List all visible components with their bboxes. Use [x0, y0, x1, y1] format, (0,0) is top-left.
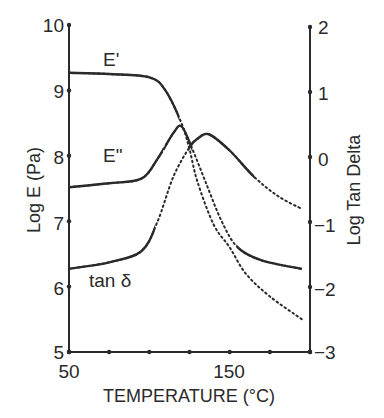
tick-mark	[67, 284, 71, 288]
x-tick-50: 50	[58, 361, 79, 382]
tick-mark	[67, 154, 71, 158]
y-tick-9: 9	[53, 81, 64, 102]
y2-tick-labels: 2 1 0 −1 −2 −3	[314, 17, 336, 363]
y2-tick-minus1: −1	[314, 215, 336, 236]
tick-mark	[308, 155, 312, 159]
tick-mark	[67, 23, 71, 27]
x-axis-title: TEMPERATURE (°C)	[103, 386, 275, 406]
y-tick-labels: 10 9 8 7 6 5	[43, 15, 64, 363]
series-label-tan-delta: tan δ	[89, 270, 131, 291]
y-tick-5: 5	[53, 342, 64, 363]
tick-mark	[107, 350, 111, 354]
tick-mark	[308, 350, 312, 354]
x-tick-150: 150	[213, 361, 245, 382]
y2-axis-title: Log Tan Delta	[344, 134, 364, 246]
y2-tick-2: 2	[318, 17, 329, 38]
tick-mark	[227, 350, 231, 354]
tick-mark	[308, 90, 312, 94]
tick-mark	[67, 350, 71, 354]
tick-mark	[268, 350, 272, 354]
y-tick-8: 8	[53, 147, 64, 168]
y2-tick-minus3: −3	[314, 342, 336, 363]
x-tick-labels: 50 150	[58, 361, 244, 382]
tick-mark	[147, 350, 151, 354]
tick-mark	[67, 219, 71, 223]
tick-marks	[67, 23, 312, 354]
tick-mark	[187, 350, 191, 354]
y2-tick-0: 0	[318, 149, 329, 170]
y-tick-6: 6	[53, 278, 64, 299]
tick-mark	[67, 88, 71, 92]
tick-mark	[308, 220, 312, 224]
y-axis-title: Log E (Pa)	[24, 147, 44, 233]
series-label-e-double-prime: E"	[103, 145, 122, 166]
y2-tick-minus2: −2	[314, 279, 336, 300]
dma-chart: 10 9 8 7 6 5 2 1 0 −1 −2 −3 50 150 TEMPE…	[0, 0, 384, 418]
y-tick-10: 10	[43, 15, 64, 36]
series-label-e-prime: E'	[103, 49, 119, 70]
y2-tick-1: 1	[318, 83, 329, 104]
tick-mark	[308, 25, 312, 29]
tick-mark	[308, 285, 312, 289]
y-tick-7: 7	[53, 213, 64, 234]
